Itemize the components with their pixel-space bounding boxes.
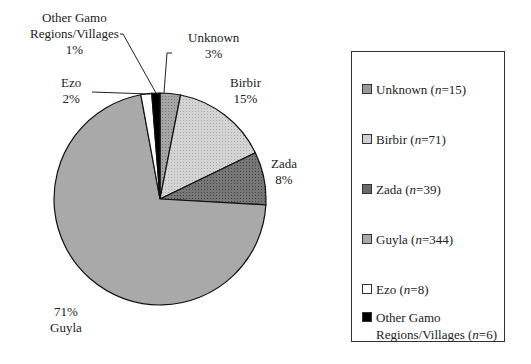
legend-item-zada: Zada (n=39) (362, 181, 441, 198)
legend-item-unknown: Unknown (n=15) (362, 81, 466, 98)
swatch-guyla (362, 234, 372, 244)
legend-item-birbir: Birbir (n=71) (362, 131, 446, 148)
label-guyla: 71%Guyla (50, 304, 82, 336)
legend-item-ezo: Ezo (n=8) (362, 281, 429, 298)
label-other: Other GamoRegions/Villages1% (30, 10, 119, 58)
label-zada: Zada8% (271, 156, 297, 188)
label-unknown: Unknown3% (188, 30, 239, 62)
swatch-ezo (362, 284, 372, 294)
leader-unknown (164, 53, 172, 93)
swatch-other (362, 312, 372, 322)
label-birbir: Birbir15% (230, 75, 261, 107)
legend-item-other: Other GamoRegions/Villages (n=6) (362, 309, 497, 343)
swatch-zada (362, 184, 372, 194)
leader-ezo (92, 92, 150, 94)
label-ezo: Ezo2% (61, 75, 81, 107)
legend-item-guyla: Guyla (n=344) (362, 231, 453, 248)
leader-other (120, 34, 156, 93)
swatch-birbir (362, 134, 372, 144)
legend: Unknown (n=15) Birbir (n=71) Zada (n=39)… (351, 51, 505, 342)
swatch-unknown (362, 84, 372, 94)
